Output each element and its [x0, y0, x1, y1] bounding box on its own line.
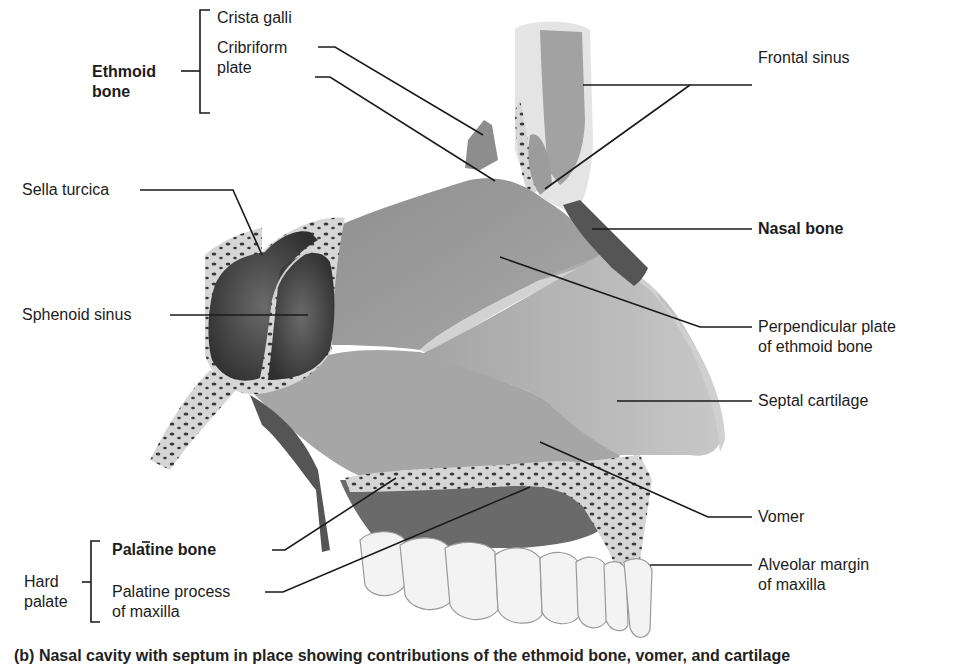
label-septal-cartilage: Septal cartilage [758, 391, 868, 411]
label-alveolar-margin: Alveolar margin of maxilla [758, 555, 869, 595]
label-crista-galli: Crista galli [217, 8, 292, 28]
label-sphenoid-sinus: Sphenoid sinus [22, 305, 131, 325]
label-palatine-bone: Palatine bone [112, 540, 216, 560]
label-cribriform-plate: Cribriform plate [217, 38, 287, 78]
frontal-bone [515, 22, 593, 215]
label-sella-turcica: Sella turcica [22, 180, 109, 200]
label-palatine-process: Palatine process of maxilla [112, 582, 230, 622]
label-vomer: Vomer [758, 507, 804, 527]
label-hard-palate: Hard palate [24, 572, 68, 612]
ethmoid-bone-text: Ethmoid bone [92, 63, 156, 100]
label-perpendicular-plate: Perpendicular plate of ethmoid bone [758, 317, 896, 357]
label-frontal-sinus: Frontal sinus [758, 48, 850, 68]
label-nasal-bone: Nasal bone [758, 219, 843, 239]
figure-caption: (b) Nasal cavity with septum in place sh… [14, 647, 790, 665]
label-ethmoid-bone: Ethmoid bone [92, 62, 156, 102]
